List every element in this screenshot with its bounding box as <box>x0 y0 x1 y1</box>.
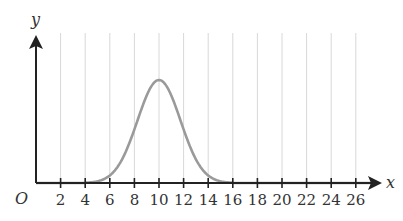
curve-path <box>36 80 374 183</box>
normal-curve-chart: 2468101214161820222426 x y O <box>0 0 403 221</box>
x-tick-label: 14 <box>199 191 218 209</box>
x-tick-label: 16 <box>223 191 242 209</box>
bell-curve <box>36 80 374 183</box>
origin-label: O <box>15 189 28 208</box>
x-tick-label: 4 <box>80 191 90 209</box>
axes <box>29 35 382 190</box>
x-tick-label: 18 <box>248 191 267 209</box>
x-tick-label: 2 <box>56 191 66 209</box>
x-tick-label: 10 <box>149 191 168 209</box>
x-tick-label: 12 <box>174 191 193 209</box>
x-tick-label: 20 <box>272 191 291 209</box>
x-tick-label: 6 <box>105 191 115 209</box>
vertical-gridlines <box>61 33 356 183</box>
x-axis-label: x <box>386 173 395 192</box>
y-axis-label: y <box>30 10 41 29</box>
x-tick-label: 26 <box>346 191 365 209</box>
x-tick-label: 24 <box>322 191 341 209</box>
x-tick-label: 8 <box>130 191 140 209</box>
x-tick-label: 22 <box>297 191 316 209</box>
